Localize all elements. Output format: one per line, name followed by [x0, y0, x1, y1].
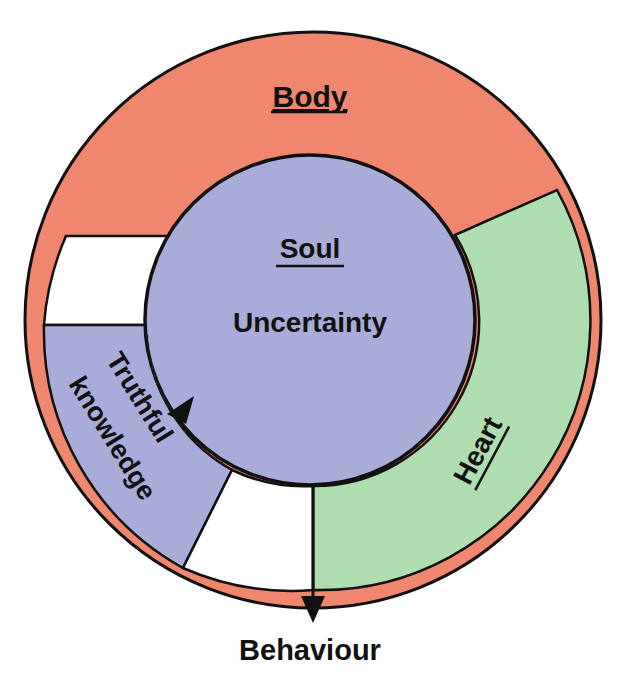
- arrowhead-down-icon: [301, 596, 325, 623]
- soul-label: Soul: [280, 233, 341, 264]
- diagram-canvas: Body Soul Uncertainty Heart Truthful kno…: [0, 0, 624, 683]
- uncertainty-label: Uncertainty: [233, 307, 387, 338]
- behaviour-label: Behaviour: [239, 634, 381, 666]
- body-label: Body: [273, 80, 348, 113]
